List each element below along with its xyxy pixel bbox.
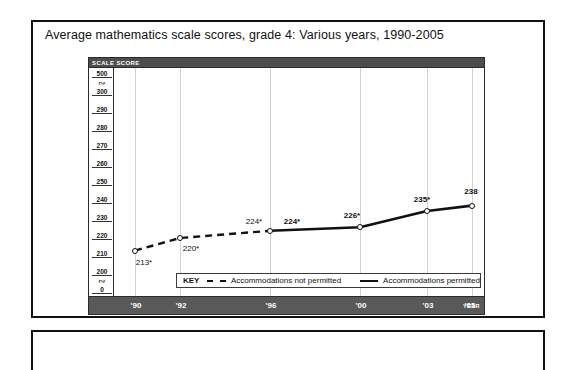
y-axis-break-top: ∾: [93, 79, 111, 87]
plot-area: 213* 220* 224* 224* 226* 235* 238 KEY Ac…: [114, 68, 485, 296]
data-label-1996-permitted: 224*: [284, 217, 300, 226]
legend-label-not-permitted: Accommodations not permitted: [231, 276, 341, 285]
x-axis: '90 '92 '96 '00 '03 '05 YEAR: [88, 296, 485, 315]
y-tick-500: 500: [89, 70, 115, 77]
y-axis-break-bottom: ∾: [93, 277, 111, 285]
x-tick-1990: '90: [131, 301, 142, 310]
legend-solid-swatch: [360, 280, 378, 282]
y-tick-280: 280: [89, 124, 115, 131]
legend-dashed-swatch: [207, 280, 225, 282]
series-permitted-line: [270, 206, 472, 231]
y-tick-300: 300: [89, 88, 115, 95]
y-tick-210: 210: [89, 250, 115, 257]
x-tick-1992: '92: [176, 301, 187, 310]
legend-label-permitted: Accommodations permitted: [383, 276, 480, 285]
data-point-2005[interactable]: [469, 203, 475, 209]
series-lines: [114, 68, 485, 296]
data-label-1996-not-permitted: 224*: [246, 217, 262, 226]
scale-score-header-band: SCALE SCORE: [88, 57, 485, 68]
scale-score-label: SCALE SCORE: [92, 59, 140, 68]
chart-legend: KEY Accommodations not permitted Accommo…: [176, 273, 481, 288]
x-tick-2003: '03: [423, 301, 434, 310]
y-tick-250: 250: [89, 178, 115, 185]
data-point-1992[interactable]: [177, 235, 183, 241]
y-axis: 500 ∾ 300 290 280 270 260 250 240 230 22…: [88, 68, 114, 296]
data-label-2003: 235*: [414, 195, 430, 204]
x-tick-2000: '00: [356, 301, 367, 310]
y-tick-260: 260: [89, 160, 115, 167]
x-tick-1996: '96: [266, 301, 277, 310]
x-axis-title: YEAR: [463, 303, 480, 309]
line-chart: SCALE SCORE 500 ∾ 300 290 280 270 260 25…: [88, 57, 485, 315]
data-point-1996[interactable]: [267, 228, 273, 234]
data-label-2000: 226*: [344, 211, 360, 220]
y-tick-220: 220: [89, 232, 115, 239]
y-tick-270: 270: [89, 142, 115, 149]
y-tick-200: 200: [89, 268, 115, 275]
data-label-2005: 238: [464, 187, 477, 196]
data-point-1990[interactable]: [132, 248, 138, 254]
series-not-permitted-line: [135, 231, 270, 251]
y-tick-230: 230: [89, 214, 115, 221]
page-title: Average mathematics scale scores, grade …: [45, 28, 444, 42]
lower-content-frame: [31, 330, 545, 370]
data-point-2003[interactable]: [424, 208, 430, 214]
data-label-1992: 220*: [183, 244, 199, 253]
y-tick-240: 240: [89, 196, 115, 203]
y-tick-0: 0: [89, 286, 115, 293]
data-label-1990: 213*: [136, 258, 152, 267]
legend-key-label: KEY: [183, 276, 199, 285]
y-tick-290: 290: [89, 106, 115, 113]
